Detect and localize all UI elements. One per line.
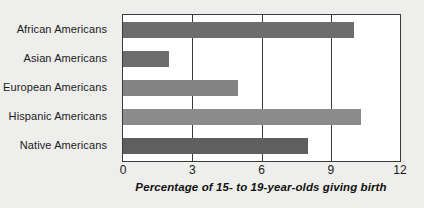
bar-asian-americans — [123, 51, 169, 67]
bar-hispanic-americans — [123, 109, 361, 125]
category-label: Native Americans — [0, 139, 114, 151]
x-tick-label: 0 — [120, 163, 127, 177]
x-tick-label: 3 — [189, 163, 196, 177]
bars-group — [123, 15, 400, 161]
x-tick-label: 9 — [327, 163, 334, 177]
category-label: Asian Americans — [0, 52, 114, 64]
x-axis-title: Percentage of 15- to 19-year-olds giving… — [122, 181, 400, 193]
x-axis-tick-labels: 036912 — [122, 163, 400, 179]
category-label: Hispanic Americans — [0, 110, 114, 122]
category-label-column: African Americans Asian Americans Europe… — [0, 14, 114, 160]
bar-row — [123, 109, 400, 125]
x-tick-label: 6 — [258, 163, 265, 177]
bar-native-americans — [123, 138, 308, 154]
bar-row — [123, 51, 400, 67]
bar-row — [123, 80, 400, 96]
bar-african-americans — [123, 22, 354, 38]
category-label: European Americans — [0, 81, 114, 93]
x-tick-label: 12 — [393, 163, 406, 177]
bar-row — [123, 138, 400, 154]
category-label: African Americans — [0, 23, 114, 35]
plot-area — [122, 14, 401, 162]
bar-row — [123, 22, 400, 38]
bar-european-americans — [123, 80, 238, 96]
bar-chart-figure: African Americans Asian Americans Europe… — [0, 0, 424, 208]
